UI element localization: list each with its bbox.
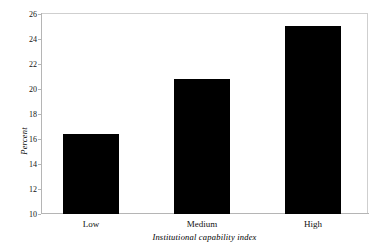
- y-axis-ticks: 101214161820222426: [0, 0, 37, 246]
- y-tick-label: 26: [7, 9, 37, 18]
- y-tick-label: 12: [7, 184, 37, 193]
- y-tick-label: 20: [7, 84, 37, 93]
- y-axis-line: [41, 13, 42, 214]
- bar-low[interactable]: [63, 134, 119, 214]
- y-tick-label: 14: [7, 159, 37, 168]
- x-axis-title: Institutional capability index: [41, 232, 368, 242]
- x-tick-label-high: High: [273, 218, 353, 231]
- y-tick-mark: [38, 214, 41, 215]
- x-tick-label-medium: Medium: [162, 218, 242, 231]
- y-tick-label: 16: [7, 134, 37, 143]
- y-tick-label: 10: [7, 210, 37, 219]
- bar-chart: Percent 101214161820222426 LowMediumHigh…: [0, 0, 377, 246]
- bar-medium[interactable]: [174, 79, 230, 214]
- y-tick-label: 18: [7, 109, 37, 118]
- y-tick-label: 22: [7, 59, 37, 68]
- bar-high[interactable]: [285, 26, 341, 214]
- x-tick-label-low: Low: [51, 218, 131, 231]
- y-tick-label: 24: [7, 34, 37, 43]
